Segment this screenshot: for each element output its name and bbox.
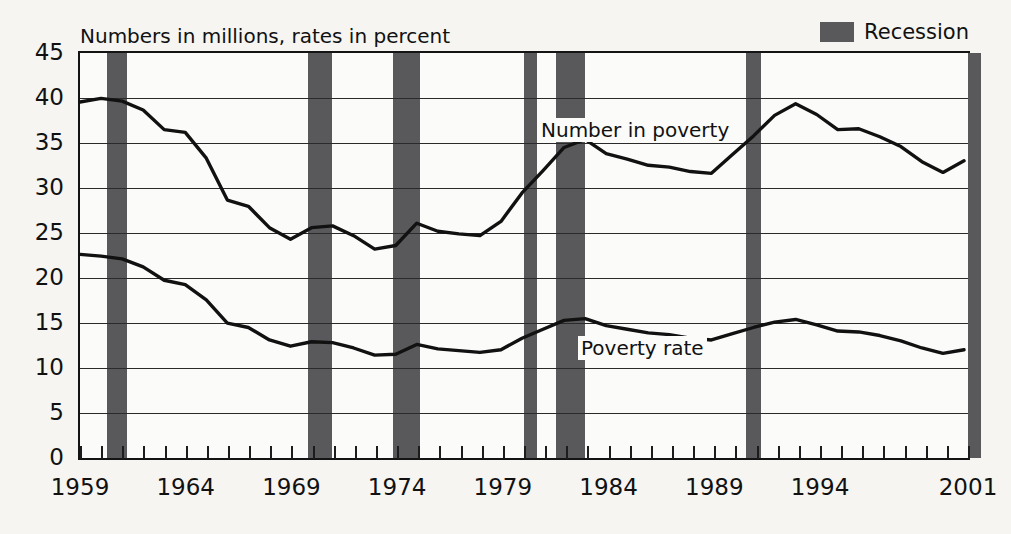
chart-legend: Recession [820,20,969,44]
x-tick-label: 1964 [156,476,215,499]
x-tick-label: 2001 [939,476,998,499]
series-lines [80,53,968,458]
recession-band [968,53,981,458]
x-tick-label: 1984 [579,476,638,499]
poverty-chart-page: Numbers in millions, rates in percent Re… [0,0,1011,534]
x-tick-mark [968,446,970,459]
annotation-number-in-poverty: Number in poverty [538,118,732,142]
x-tick-label: 1994 [791,476,850,499]
y-tick-label: 0 [6,446,64,469]
y-tick-label: 35 [6,131,64,154]
y-tick-label: 25 [6,221,64,244]
y-tick-label: 30 [6,176,64,199]
y-tick-label: 10 [6,356,64,379]
y-tick-label: 20 [6,266,64,289]
x-tick-label: 1974 [368,476,427,499]
chart-subtitle: Numbers in millions, rates in percent [80,24,450,48]
recession-legend-swatch [820,22,854,42]
y-tick-label: 5 [6,401,64,424]
y-tick-label: 45 [6,41,64,64]
x-tick-label: 1989 [685,476,744,499]
y-tick-label: 40 [6,86,64,109]
y-tick-label: 15 [6,311,64,334]
x-tick-label: 1969 [262,476,321,499]
recession-legend-label: Recession [864,20,969,44]
line-number-in-poverty [80,98,964,249]
line-poverty-rate [80,254,964,355]
x-tick-label: 1959 [51,476,110,499]
annotation-poverty-rate: Poverty rate [578,336,707,360]
plot-area [78,51,970,460]
x-tick-label: 1979 [474,476,533,499]
